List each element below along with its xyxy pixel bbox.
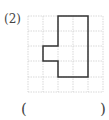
grid-figure: [0, 0, 109, 100]
answer-close-paren: ): [100, 100, 106, 118]
answer-open-paren: (: [21, 100, 27, 118]
shape-outline: [43, 16, 88, 77]
grid-lines: [28, 16, 103, 92]
